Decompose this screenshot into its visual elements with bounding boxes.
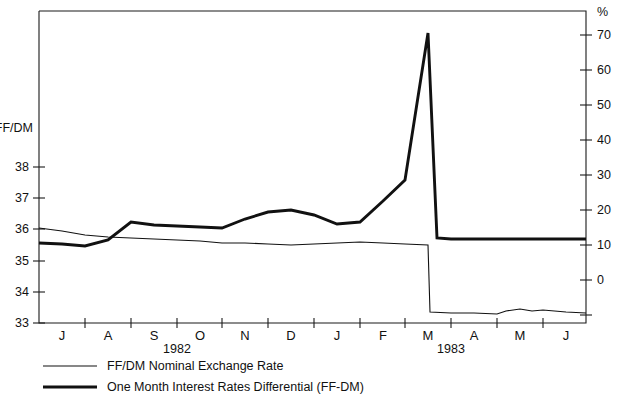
month-label: A [104,328,113,343]
left-tick-label: 35 [15,254,29,268]
right-tick-label: 70 [597,28,611,42]
right-tick-label: 20 [597,203,611,217]
month-label: F [379,328,387,343]
month-label: J [563,328,570,343]
month-label: M [515,328,526,343]
month-label: O [195,328,205,343]
legend-swatch-thick-line-icon [39,380,101,394]
right-tick-label: 60 [597,63,611,77]
legend-entry-interest-differential: One Month Interest Rates Differential (F… [39,379,599,395]
right-tick-label: 30 [597,168,611,182]
left-axis-tick-labels: 38 37 36 35 34 33 [15,160,29,330]
left-tick-label: 36 [15,222,29,236]
year-label-1983: 1983 [437,342,465,356]
right-axis-tick-labels: 70 60 50 40 30 20 10 0 [597,28,611,287]
left-axis-title: FF/DM [0,121,33,135]
year-label-1982: 1982 [163,342,191,356]
series-one-month-interest-rates-differential [39,33,586,246]
series-ffdm-nominal-exchange-rate [39,228,586,314]
right-axis-title: % [597,5,608,19]
right-tick-label: 40 [597,133,611,147]
right-tick-label: 10 [597,238,611,252]
month-label: J [334,328,341,343]
month-label: J [59,328,66,343]
left-tick-label: 34 [15,285,29,299]
legend-label-exchange-rate: FF/DM Nominal Exchange Rate [107,359,283,373]
left-tick-label: 37 [15,191,29,205]
x-axis-month-labels: J A S O N D J F M A M J [59,328,570,343]
legend-swatch-thin-line-icon [39,359,101,373]
month-label: D [286,328,295,343]
legend-entry-exchange-rate: FF/DM Nominal Exchange Rate [39,358,599,374]
right-tick-label: 0 [597,273,604,287]
left-tick-label: 38 [15,160,29,174]
legend-label-interest-differential: One Month Interest Rates Differential (F… [107,380,364,394]
right-tick-label: 50 [597,98,611,112]
month-label: N [240,328,249,343]
month-label: M [423,328,434,343]
plot-frame [39,11,586,323]
month-label: A [470,328,479,343]
month-label: S [150,328,159,343]
left-tick-label: 33 [15,316,29,330]
chart-legend: FF/DM Nominal Exchange Rate One Month In… [39,358,599,395]
